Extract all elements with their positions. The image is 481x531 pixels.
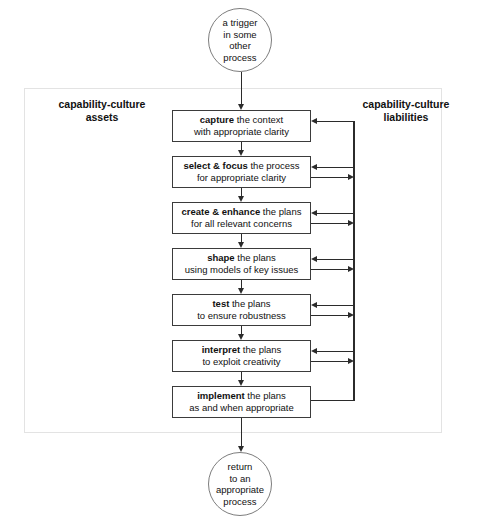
process-box-interpret-line2: to exploit creativity [202,356,280,368]
process-box-implement-rest: the plans [245,390,286,401]
arrowhead-feedback-in-shape [311,256,317,262]
process-box-test-emphasis: test [212,298,229,309]
process-box-select-focus-line2: for appropriate clarity [197,172,286,184]
feedback-out-line-create-enhance [311,223,349,224]
process-box-interpret-rest: the plans [240,344,281,355]
process-box-shape-rest: the plans [235,252,276,263]
process-box-create-enhance-rest: the plans [260,206,301,217]
process-box-select-focus[interactable]: select & focus the processfor appropriat… [172,156,311,188]
process-box-interpret[interactable]: interpret the plansto exploit creativity [172,340,311,372]
arrowhead-feedback-in-select-focus [311,164,317,170]
process-box-capture-line2: with appropriate clarity [194,126,289,138]
label-capability-culture-liabilities: capability-culture liabilities [336,98,476,124]
feedback-out-line-select-focus [311,177,349,178]
arrowhead-feedback-in-capture [311,118,317,124]
process-box-capture[interactable]: capture the contextwith appropriate clar… [172,110,311,142]
feedback-bus-vertical [353,121,354,401]
process-box-select-focus-line1: select & focus the process [183,160,299,172]
process-box-shape-emphasis: shape [207,252,234,263]
label-capability-culture-assets: capability-culture assets [32,98,172,124]
feedback-out-line-interpret [311,361,349,362]
process-box-test-rest: the plans [229,298,270,309]
feedback-in-line-select-focus [317,167,354,168]
process-box-interpret-emphasis: interpret [202,344,241,355]
process-box-shape-line1: shape the plans [207,252,276,264]
arrowhead-feedback-in-interpret [311,348,317,354]
connector-implement-down [241,418,242,447]
process-box-shape[interactable]: shape the plansusing models of key issue… [172,248,311,280]
feedback-in-line-test [317,305,354,306]
arrowhead-feedback-in-create-enhance [311,210,317,216]
process-box-capture-emphasis: capture [200,114,234,125]
process-box-test[interactable]: test the plansto ensure robustness [172,294,311,326]
feedback-in-line-interpret [317,351,354,352]
process-box-create-enhance-emphasis: create & enhance [182,206,261,217]
process-box-create-enhance[interactable]: create & enhance the plansfor all releva… [172,202,311,234]
process-box-implement[interactable]: implement the plansas and when appropria… [172,386,311,418]
process-box-implement-line1: implement the plans [197,390,286,402]
process-box-interpret-line1: interpret the plans [202,344,282,356]
process-box-implement-emphasis: implement [197,390,245,401]
arrowhead-implement-down [238,446,244,452]
process-box-shape-line2: using models of key issues [185,264,299,276]
terminator-end: return to an appropriate process [208,452,272,516]
feedback-out-line-test [311,315,349,316]
process-box-create-enhance-line1: create & enhance the plans [182,206,302,218]
arrowhead-feedback-in-test [311,302,317,308]
feedback-out-line-shape [311,269,349,270]
process-box-select-focus-emphasis: select & focus [183,160,247,171]
feedback-out-line-implement [311,400,355,401]
process-box-capture-rest: the context [234,114,283,125]
terminator-start: a trigger in some other process [208,8,272,72]
feedback-in-line-shape [317,259,354,260]
diagram-canvas: capability-culture assets capability-cul… [0,0,481,531]
process-box-test-line2: to ensure robustness [197,310,286,322]
process-box-implement-line2: as and when appropriate [189,402,294,414]
process-box-select-focus-rest: the process [248,160,300,171]
feedback-in-line-create-enhance [317,213,354,214]
process-box-test-line1: test the plans [212,298,270,310]
process-box-create-enhance-line2: for all relevant concerns [191,218,292,230]
process-box-capture-line1: capture the context [200,114,283,126]
feedback-in-line-capture [317,121,354,122]
connector-start-to-capture [241,72,242,105]
